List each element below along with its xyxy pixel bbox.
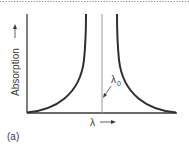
y-arrow-head-icon <box>13 24 17 29</box>
x-arrow-head-icon <box>111 120 116 124</box>
panel-label: (a) <box>7 131 19 142</box>
absorption-diagram: Absorption λ 0 λ (a) <box>0 0 189 146</box>
x-axis-label: λ <box>90 117 95 128</box>
y-axis-label: Absorption <box>10 48 21 96</box>
resonance-label: λ <box>111 74 116 85</box>
svg-text:Absorption: Absorption <box>10 48 21 96</box>
absorption-curve-left <box>27 14 86 113</box>
resonance-subscript: 0 <box>117 80 121 87</box>
pointer-arrow-head-icon <box>103 93 107 98</box>
absorption-curve-right <box>117 14 176 113</box>
resonance-pointer <box>105 86 111 95</box>
